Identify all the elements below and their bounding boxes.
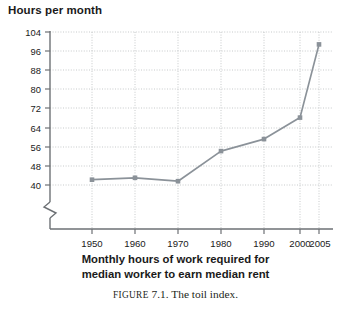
y-tick-label: 96	[31, 46, 41, 57]
y-axis-ticks	[45, 32, 50, 185]
data-series-line	[92, 44, 319, 181]
x-axis-ticks	[92, 229, 319, 234]
y-tick-label: 48	[31, 161, 41, 172]
x-axis-title-line1: Monthly hours of work required for	[0, 252, 351, 267]
y-tick-label: 104	[25, 27, 41, 38]
x-tick-label: 1980	[210, 238, 231, 249]
figure-caption-text: 7.1. The toil index.	[152, 288, 238, 300]
vertical-gridlines	[92, 32, 319, 228]
y-tick-label: 80	[31, 84, 41, 95]
x-tick-label: 2005	[309, 238, 330, 249]
figure-caption: FIGURE 7.1. The toil index.	[0, 288, 351, 300]
axis-break-icon	[44, 202, 56, 218]
data-point-marker	[176, 179, 181, 184]
y-tick-label: 88	[31, 65, 41, 76]
plot-area: 104 96 88 80 72 64 56 48 40 1950 1960 19…	[0, 0, 351, 250]
y-tick-label: 40	[31, 180, 41, 191]
y-tick-label: 64	[31, 123, 41, 134]
x-tick-label: 2000	[289, 238, 310, 249]
data-point-marker	[90, 177, 95, 182]
data-point-marker	[219, 149, 224, 154]
data-point-marker	[298, 115, 303, 120]
data-point-marker	[133, 176, 138, 181]
x-tick-label: 1960	[124, 238, 145, 249]
x-tick-label: 1990	[253, 238, 274, 249]
data-point-marker	[317, 42, 322, 47]
x-axis-title: Monthly hours of work required for media…	[0, 252, 351, 281]
line-chart-svg: 104 96 88 80 72 64 56 48 40 1950 1960 19…	[0, 0, 351, 250]
y-tick-label: 56	[31, 142, 41, 153]
y-tick-label: 72	[31, 103, 41, 114]
figure-caption-prefix: FIGURE	[113, 290, 149, 300]
data-point-marker	[262, 137, 267, 142]
x-axis-title-line2: median worker to earn median rent	[0, 267, 351, 282]
x-tick-label: 1970	[167, 238, 188, 249]
x-tick-label: 1950	[81, 238, 102, 249]
figure-container: Hours per month	[0, 0, 351, 309]
